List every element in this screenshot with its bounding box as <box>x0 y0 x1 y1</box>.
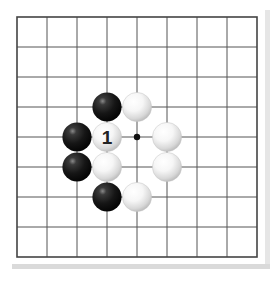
black-stone <box>92 92 121 121</box>
move-number-label: 1 <box>102 127 113 148</box>
white-stone: 1 <box>92 122 121 151</box>
black-stone <box>92 182 121 211</box>
point-marker-dot <box>134 134 140 140</box>
go-board: 1 <box>0 0 280 291</box>
black-stone <box>62 152 91 181</box>
white-stone <box>152 152 181 181</box>
white-stone <box>122 92 151 121</box>
markers <box>134 134 140 140</box>
white-stone <box>122 182 151 211</box>
white-stone <box>92 152 121 181</box>
white-stone <box>152 122 181 151</box>
black-stone <box>62 122 91 151</box>
